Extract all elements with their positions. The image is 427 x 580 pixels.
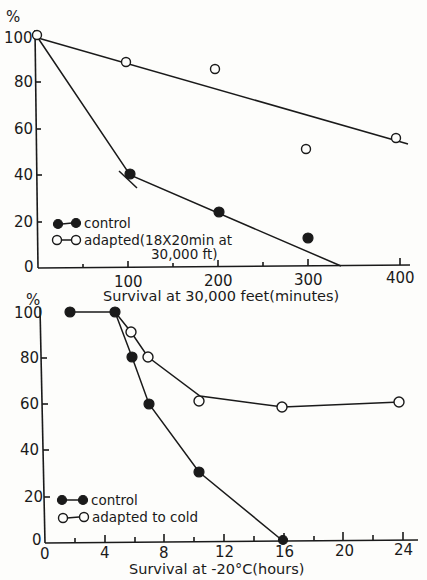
bottom-x-label-16: 16 [275,543,294,561]
bottom-x-label-12: 12 [215,543,234,561]
top-legend: control adapted(18X20min at 30,000 ft) [53,215,233,262]
top-y-label-20: 20 [14,213,33,231]
bottom-y-label-60: 60 [20,395,39,413]
top-x-axis [38,265,410,268]
legend-control-marker-icon [54,220,63,229]
top-legend-adapted-2: 30,000 ft) [151,246,218,262]
top-y-label-80: 80 [14,73,33,91]
top-legend-control: control [84,215,131,231]
bottom-adapted-points [126,327,404,412]
bottom-x-label-20: 20 [335,542,354,560]
legend-adapted-marker-icon [53,236,62,245]
top-y-label-0: 0 [24,258,34,276]
bottom-x-axis-title: Survival at -20°C(hours) [129,561,304,577]
bottom-legend-control: control [91,492,138,508]
bottom-x-label-0: 0 [40,545,50,563]
bottom-x-label-8: 8 [159,544,169,562]
top-y-axis [35,30,38,268]
bottom-x-label-4: 4 [100,544,110,562]
top-y-label-60: 60 [14,120,33,138]
legend-adapted-marker-icon [59,514,68,523]
top-x-axis-title: Survival at 30,000 feet(minutes) [103,288,339,304]
bottom-chart: % 100 80 60 40 20 0 0 4 8 12 16 20 24 Su… [14,291,418,577]
top-adapted-fit-line [38,38,408,144]
bottom-y-label-40: 40 [20,441,39,459]
figure-canvas: % 100 80 60 40 20 0 100 200 300 400 Surv… [0,0,427,580]
top-y-label-100: 100 [4,29,33,47]
bottom-y-label-80: 80 [20,349,39,367]
bottom-y-axis [40,308,45,543]
bottom-x-label-24: 24 [394,541,413,559]
bottom-adapted-line [115,312,400,407]
bottom-legend-adapted: adapted to cold [92,509,198,525]
bottom-legend: control adapted to cold [58,492,199,525]
legend-control-marker-icon [58,496,67,505]
top-adapted-points [33,31,401,154]
top-percent-label: % [6,8,20,26]
bottom-y-label-20: 20 [24,488,43,506]
bottom-y-label-100: 100 [14,304,43,322]
top-x-label-400: 400 [386,269,415,287]
top-chart: % 100 80 60 40 20 0 100 200 300 400 Surv… [4,8,415,304]
top-x-label-300: 300 [294,271,323,289]
top-y-label-40: 40 [14,166,33,184]
